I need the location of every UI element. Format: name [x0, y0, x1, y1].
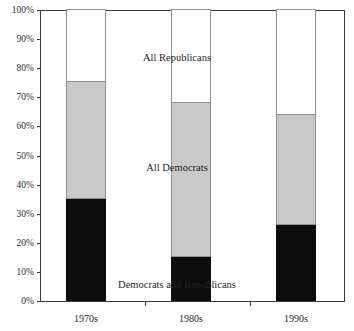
y-tick-label-70: 70% — [0, 92, 34, 102]
y-tick-label-80: 80% — [0, 63, 34, 73]
bar-segment-republicans-1970s[interactable] — [66, 9, 106, 81]
y-tick-label-60: 60% — [0, 121, 34, 131]
stacked-bar-chart: 100% 90% 80% 70% 60% 50% 40% 30% 20% 10%… — [0, 0, 354, 331]
bar-segment-democrats-1980s[interactable] — [171, 102, 211, 257]
x-tick-label-1980s: 1980s — [171, 313, 211, 324]
x-tick-mark-1 — [145, 302, 146, 306]
y-tick-label-40: 40% — [0, 180, 34, 190]
y-tick-label-90: 90% — [0, 34, 34, 44]
series-annotation-republicans: All Republicans — [117, 52, 237, 64]
series-annotation-democrats: All Democrats — [122, 162, 232, 174]
bar-segment-both-1990s[interactable] — [276, 225, 316, 301]
bar-segment-democrats-1970s[interactable] — [66, 81, 106, 199]
y-tick-label-10: 10% — [0, 267, 34, 277]
y-tick-label-0: 0% — [0, 296, 34, 306]
bar-group-1970s[interactable] — [66, 9, 106, 301]
y-tick-label-50: 50% — [0, 151, 34, 161]
x-tick-label-1990s: 1990s — [276, 313, 316, 324]
x-tick-mark-2 — [250, 302, 251, 306]
x-tick-label-1970s: 1970s — [66, 313, 106, 324]
bar-segment-republicans-1990s[interactable] — [276, 9, 316, 114]
y-tick-label-100: 100% — [0, 5, 34, 15]
series-annotation-both: Democrats and Republicans — [92, 279, 262, 291]
bar-group-1990s[interactable] — [276, 9, 316, 301]
y-tick-label-30: 30% — [0, 209, 34, 219]
y-tick-label-20: 20% — [0, 238, 34, 248]
bar-segment-democrats-1990s[interactable] — [276, 114, 316, 225]
